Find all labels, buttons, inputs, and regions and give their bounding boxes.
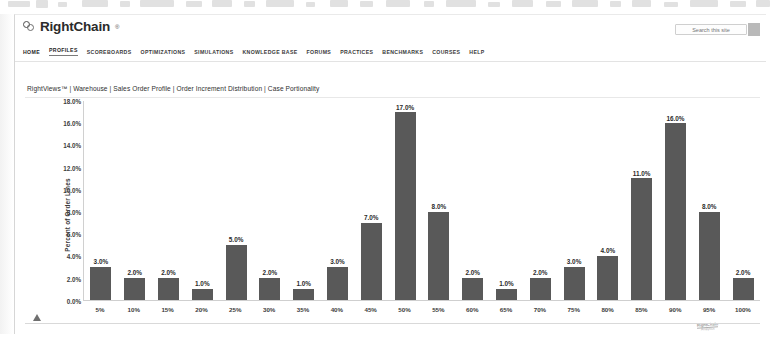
x-tick: 70% [523, 302, 557, 318]
nav-item-scoreboards[interactable]: SCOREBOARDS [87, 47, 141, 60]
search-input[interactable] [675, 24, 747, 35]
bar-slot: 2.0% [253, 101, 287, 300]
plot-area: 3.0%2.0%2.0%1.0%5.0%2.0%1.0%3.0%7.0%17.0… [83, 101, 760, 301]
bar-slot: 16.0% [659, 101, 693, 300]
nav-label: HOME [23, 49, 40, 55]
bar-value-label: 11.0% [633, 170, 651, 177]
bar-slot: 3.0% [84, 101, 118, 300]
nav-divider [15, 61, 766, 62]
x-tick: 35% [286, 302, 320, 318]
bar[interactable] [361, 223, 382, 300]
breadcrumb[interactable]: RightViews™ | Warehouse | Sales Order Pr… [27, 85, 319, 92]
nav-label: HELP [469, 49, 484, 55]
nav-item-help[interactable]: HELP [469, 47, 493, 60]
bar[interactable] [699, 212, 720, 300]
page-gutter-shadow [0, 14, 13, 334]
bar[interactable] [327, 267, 348, 300]
main-navigation: HOME PROFILES SCOREBOARDS OPTIMIZATIONS … [23, 45, 760, 61]
x-tick: 30% [252, 302, 286, 318]
nav-item-home[interactable]: HOME [23, 47, 49, 60]
x-tick: 50% [388, 302, 422, 318]
bar[interactable] [90, 267, 111, 300]
bar-slot: 17.0% [388, 101, 422, 300]
site-window: RightChain ® HOME PROFILES SCOREBOARDS O… [14, 14, 766, 334]
nav-item-simulations[interactable]: SIMULATIONS [194, 47, 242, 60]
x-tick: 15% [151, 302, 185, 318]
bar-value-label: 2.0% [127, 269, 142, 276]
scan-artifact-strip [0, 0, 780, 14]
nav-label: SIMULATIONS [194, 49, 233, 55]
bar-value-label: 4.0% [601, 247, 616, 254]
bar-value-label: 7.0% [364, 214, 379, 221]
bar[interactable] [597, 256, 618, 300]
y-tick: 0.0% [67, 298, 81, 305]
search-button[interactable] [748, 23, 760, 36]
nav-label: COURSES [432, 49, 460, 55]
bar-value-label: 3.0% [94, 258, 109, 265]
bar-value-label: 2.0% [465, 269, 480, 276]
bar-value-label: 2.0% [533, 269, 548, 276]
bar[interactable] [496, 289, 517, 300]
bar-value-label: 2.0% [161, 269, 176, 276]
nav-label: PROFILES [49, 47, 78, 53]
bar[interactable] [665, 123, 686, 300]
bar-value-label: 5.0% [229, 236, 244, 243]
bar-slot: 2.0% [118, 101, 152, 300]
bar-value-label: 8.0% [702, 203, 717, 210]
y-tick: 16.0% [63, 120, 81, 127]
bar[interactable] [462, 278, 483, 300]
bar-slot: 1.0% [490, 101, 524, 300]
bar[interactable] [226, 245, 247, 300]
bar-slot: 1.0% [185, 101, 219, 300]
bar-slot: 8.0% [422, 101, 456, 300]
nav-item-practices[interactable]: PRACTICES [340, 47, 382, 60]
nav-item-profiles[interactable]: PROFILES [49, 45, 87, 62]
x-tick: 80% [591, 302, 625, 318]
bar[interactable] [124, 278, 145, 300]
bar[interactable] [564, 267, 585, 300]
bar-value-label: 17.0% [396, 104, 414, 111]
bar[interactable] [293, 289, 314, 300]
nav-item-forums[interactable]: FORUMS [307, 47, 341, 60]
y-tick: 8.0% [67, 209, 81, 216]
bar-value-label: 2.0% [736, 269, 751, 276]
y-tick: 6.0% [67, 231, 81, 238]
bar-series: 3.0%2.0%2.0%1.0%5.0%2.0%1.0%3.0%7.0%17.0… [84, 101, 760, 300]
x-tick: 10% [117, 302, 151, 318]
brand-logo[interactable]: RightChain ® [23, 19, 119, 34]
nav-item-benchmarks[interactable]: BENCHMARKS [382, 47, 432, 60]
x-tick: 60% [455, 302, 489, 318]
y-tick: 12.0% [63, 164, 81, 171]
bar[interactable] [192, 289, 213, 300]
bar[interactable] [733, 278, 754, 300]
x-tick: 20% [185, 302, 219, 318]
bar[interactable] [395, 112, 416, 300]
bar-slot: 8.0% [692, 101, 726, 300]
order-increment-distribution-chart: Percent of Order Lines 18.0% 16.0% 14.0%… [25, 101, 760, 328]
brand-trademark: ® [115, 24, 119, 30]
site-search[interactable] [675, 23, 760, 36]
nav-item-courses[interactable]: COURSES [432, 47, 469, 60]
bar[interactable] [631, 178, 652, 300]
bar-slot: 2.0% [726, 101, 760, 300]
bar-value-label: 3.0% [567, 258, 582, 265]
scroll-up-triangle-icon[interactable] [33, 314, 41, 321]
y-tick: 4.0% [67, 253, 81, 260]
bar[interactable] [530, 278, 551, 300]
brand-name: RightChain [40, 19, 110, 34]
bar[interactable] [428, 212, 449, 300]
nav-label: BENCHMARKS [382, 49, 423, 55]
bar-slot: 5.0% [219, 101, 253, 300]
x-tick: 65% [489, 302, 523, 318]
y-tick: 18.0% [63, 98, 81, 105]
bar[interactable] [158, 278, 179, 300]
breadcrumb-divider [25, 97, 760, 98]
x-tick: 75% [557, 302, 591, 318]
x-tick: 90% [658, 302, 692, 318]
nav-item-optimizations[interactable]: OPTIMIZATIONS [141, 47, 195, 60]
x-tick: 95% [692, 302, 726, 318]
bar[interactable] [259, 278, 280, 300]
bar-slot: 3.0% [321, 101, 355, 300]
bar-value-label: 3.0% [330, 258, 345, 265]
nav-item-knowledge-base[interactable]: KNOWLEDGE BASE [243, 47, 307, 60]
